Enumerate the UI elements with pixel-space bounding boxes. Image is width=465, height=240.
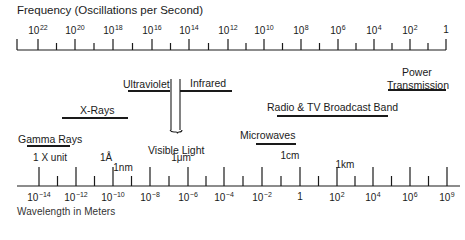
band-label-ultraviolet: Ultraviolet [123,78,170,90]
visible-light-bracket [170,79,182,134]
band-label-x-rays: X-Rays [80,104,114,116]
unit-marker-label: 1μm [171,152,191,163]
band-range-ultraviolet [128,90,170,92]
wavelength-tick-label: 10−14 [27,191,51,203]
unit-marker-label: 1km [336,159,355,170]
wavelength-tick-label: 10−12 [64,191,88,203]
wavelength-tick-label: 10−10 [101,191,125,203]
wavelength-tick-label: 109 [439,191,455,203]
band-range-radio-tv-broadcast-band [277,115,388,117]
band-label-radio-tv-broadcast-band: Radio & TV Broadcast Band [267,101,398,113]
band-label-microwaves: Microwaves [240,129,295,141]
band-range-microwaves [256,143,296,145]
band-range-infrared [180,90,232,92]
wavelength-tick-label: 106 [402,191,418,203]
band-label-infrared: Infrared [190,77,226,89]
wavelength-tick-label: 1 [297,191,303,202]
band-range-x-rays [62,117,128,119]
wavelength-tick-label: 104 [365,191,381,203]
wavelength-tick-label: 10−8 [140,191,160,203]
band-range-transmission [388,89,446,91]
wavelength-tick-label: 10−2 [252,191,272,203]
unit-marker-label: 1 X unit [33,152,67,163]
wavelength-axis-title: Wavelength in Meters [17,206,115,217]
unit-marker-label: 1cm [281,150,300,161]
wavelength-tick-label: 10−6 [178,191,198,203]
band-label-power: Power [402,66,432,78]
frequency-axis [17,39,446,50]
wavelength-tick-label: 102 [329,191,345,203]
band-range-gamma-rays [27,145,70,147]
wavelength-axis [17,167,460,186]
unit-marker-label: 1Å [100,152,112,163]
band-label-gamma-rays: Gamma Rays [18,133,82,145]
unit-marker-label: 1nm [113,162,132,173]
wavelength-tick-label: 10−4 [214,191,234,203]
